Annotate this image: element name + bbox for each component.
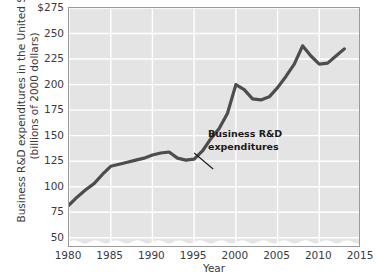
y-axis-tick-labels: 5075100125150175200225250$275 [22, 0, 64, 280]
x-tick-label: 2000 [213, 249, 257, 261]
x-tick-label: 2010 [296, 249, 340, 261]
y-tick-label: 225 [24, 52, 64, 64]
series-annotation-line1: Business R&D [208, 128, 282, 141]
y-tick-label: 75 [24, 205, 64, 217]
horizontal-gridlines [69, 8, 360, 238]
x-tick-label: 2015 [338, 249, 376, 261]
x-tick-label: 1995 [171, 249, 215, 261]
series-annotation-line2: expenditures [208, 141, 282, 154]
y-tick-label: 250 [24, 27, 64, 39]
y-tick-label: 125 [24, 154, 64, 166]
axis-break-wave [69, 240, 360, 247]
y-tick-label: 150 [24, 129, 64, 141]
x-tick-label: 1980 [46, 249, 90, 261]
chart-figure: Business R&D expenditures in the United … [0, 0, 376, 280]
y-tick-label: 50 [24, 231, 64, 243]
x-tick-label: 1985 [88, 249, 132, 261]
y-tick-label: 200 [24, 78, 64, 90]
plot-area [68, 7, 360, 247]
x-tick-label: 1990 [129, 249, 173, 261]
y-tick-label: 100 [24, 180, 64, 192]
x-axis-title: Year [68, 262, 360, 274]
series-annotation: Business R&D expenditures [208, 128, 282, 154]
y-tick-label: 175 [24, 103, 64, 115]
x-tick-label: 2005 [255, 249, 299, 261]
y-tick-label: $275 [24, 1, 64, 13]
